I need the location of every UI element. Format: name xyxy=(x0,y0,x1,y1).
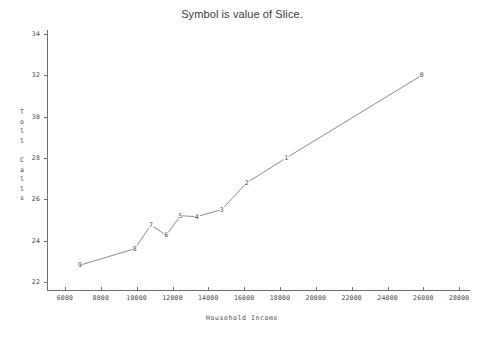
data-point-9: 9 xyxy=(78,262,83,269)
chart-page: Symbol is value of Slice. 22242628303234… xyxy=(0,0,484,339)
data-point-3: 3 xyxy=(219,206,224,213)
data-point-8: 8 xyxy=(132,245,137,252)
data-point-0: 0 xyxy=(419,72,424,79)
data-point-7: 7 xyxy=(149,222,154,229)
data-point-5: 5 xyxy=(178,212,183,219)
plot-area: 22242628303234 6000800010000120001400016… xyxy=(0,0,484,339)
data-point-6: 6 xyxy=(164,232,169,239)
data-series-line xyxy=(0,0,484,339)
data-point-1: 1 xyxy=(284,154,289,161)
data-point-4: 4 xyxy=(194,213,199,220)
data-point-2: 2 xyxy=(244,179,249,186)
